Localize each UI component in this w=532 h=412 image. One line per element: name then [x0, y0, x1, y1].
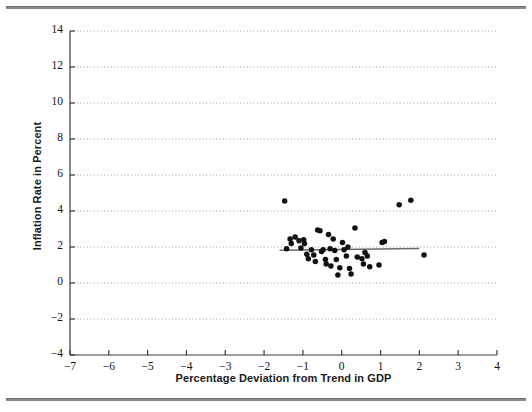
data-point [330, 236, 336, 242]
data-point [421, 252, 427, 258]
data-point [309, 247, 315, 253]
x-tick-label: −4 [171, 360, 201, 372]
data-point [344, 253, 350, 259]
x-tick-label: 1 [366, 360, 396, 372]
y-tick-label: 12 [37, 59, 63, 71]
data-point [345, 244, 351, 250]
data-point [347, 266, 353, 272]
data-point [352, 225, 358, 231]
data-point [348, 271, 354, 277]
x-axis-ticks [70, 350, 497, 355]
x-axis-title: Percentage Deviation from Trend in GDP [70, 372, 497, 384]
data-point [365, 253, 371, 259]
x-tick-label: 4 [482, 360, 512, 372]
data-point [334, 257, 340, 263]
data-point [359, 256, 365, 262]
x-tick-label: −5 [133, 360, 163, 372]
data-point [317, 228, 323, 234]
axis-lines [70, 31, 497, 355]
data-point [376, 262, 382, 268]
data-point [302, 241, 308, 247]
data-point [408, 197, 414, 203]
y-axis-title: Inflation Rate in Percent [31, 86, 43, 286]
x-tick-label: −3 [210, 360, 240, 372]
data-point [311, 252, 317, 258]
data-point [361, 261, 367, 267]
x-tick-label: 3 [443, 360, 473, 372]
data-point [306, 256, 312, 262]
data-points [282, 197, 427, 277]
y-axis-ticks [70, 31, 75, 355]
x-tick-label: 0 [327, 360, 357, 372]
data-point [340, 240, 346, 246]
data-point [313, 259, 319, 265]
x-tick-label: −7 [55, 360, 85, 372]
scatter-plot [0, 0, 532, 412]
data-point [289, 241, 295, 247]
x-tick-label: 2 [404, 360, 434, 372]
data-point [320, 247, 326, 253]
data-point [298, 245, 304, 251]
data-point [332, 248, 338, 254]
data-point [326, 232, 332, 238]
data-point [396, 202, 402, 208]
data-point [367, 264, 373, 270]
data-point [337, 265, 343, 271]
data-point [382, 239, 388, 245]
y-tick-label: 14 [37, 23, 63, 35]
data-point [284, 246, 290, 252]
data-point [328, 263, 334, 269]
data-point [296, 238, 302, 244]
x-tick-label: −2 [249, 360, 279, 372]
x-tick-label: −6 [94, 360, 124, 372]
y-tick-label: −4 [37, 347, 63, 359]
figure-container: −7−6−5−4−3−2−101234 −4−202468101214 Perc… [0, 0, 532, 412]
data-point [335, 272, 341, 278]
x-tick-label: −1 [288, 360, 318, 372]
gridlines [70, 31, 497, 319]
y-tick-label: −2 [37, 311, 63, 323]
data-point [282, 198, 288, 204]
